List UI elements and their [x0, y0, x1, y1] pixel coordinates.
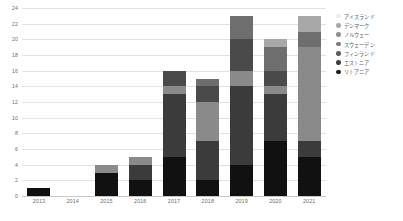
bar-segment[interactable]	[264, 86, 287, 94]
x-tick-label: 2013	[22, 198, 56, 212]
legend-label: フィンランド	[344, 50, 375, 57]
bar-segment[interactable]	[196, 180, 219, 196]
legend-item[interactable]: アイスランド	[336, 12, 402, 20]
x-tick-label: 2019	[225, 198, 259, 212]
bar-segment[interactable]	[163, 94, 186, 157]
x-tick-label: 2016	[123, 198, 157, 212]
bar-segment[interactable]	[264, 39, 287, 47]
bar-slot[interactable]	[157, 8, 191, 196]
gridline	[22, 196, 326, 197]
bar-segment[interactable]	[264, 71, 287, 87]
legend-swatch-icon	[336, 51, 341, 56]
legend-swatch-icon	[336, 14, 341, 19]
bar-segment[interactable]	[129, 165, 152, 181]
bar-segment[interactable]	[298, 157, 321, 196]
legend-swatch-icon	[336, 32, 341, 37]
y-tick-label: 6	[15, 146, 18, 152]
bar-segment[interactable]	[298, 47, 321, 141]
y-tick-label: 16	[12, 68, 18, 74]
y-axis: 024681012141618202224	[0, 8, 20, 196]
bar-segment[interactable]	[196, 86, 219, 102]
bar-segment[interactable]	[230, 86, 253, 164]
legend-label: エストニア	[344, 59, 370, 66]
bar-stack[interactable]	[95, 165, 118, 196]
bar-segment[interactable]	[230, 165, 253, 196]
chart-legend: アイスランドデンマークノルウェースウェーデンフィンランドエストニアリトアニア	[336, 12, 402, 77]
bar-segment[interactable]	[196, 79, 219, 87]
x-tick-label: 2015	[90, 198, 124, 212]
legend-item[interactable]: リトアニア	[336, 68, 402, 76]
y-tick-label: 22	[12, 21, 18, 27]
bar-segment[interactable]	[95, 165, 118, 173]
y-tick-label: 18	[12, 52, 18, 58]
plot-area	[22, 8, 326, 196]
legend-item[interactable]: フィンランド	[336, 49, 402, 57]
bar-segment[interactable]	[27, 188, 50, 196]
x-tick-label: 2017	[157, 198, 191, 212]
x-axis: 201320142015201620172018201920202021	[22, 198, 326, 212]
bar-slot[interactable]	[292, 8, 326, 196]
bar-segment[interactable]	[298, 32, 321, 48]
bar-slot[interactable]	[123, 8, 157, 196]
legend-label: デンマーク	[344, 22, 370, 29]
x-tick-label: 2018	[191, 198, 225, 212]
bar-slot[interactable]	[191, 8, 225, 196]
bar-slot[interactable]	[258, 8, 292, 196]
y-tick-label: 8	[15, 130, 18, 136]
bar-stack[interactable]	[230, 16, 253, 196]
y-tick-label: 10	[12, 115, 18, 121]
x-tick-label: 2014	[56, 198, 90, 212]
bar-segment[interactable]	[264, 141, 287, 196]
legend-label: スウェーデン	[344, 41, 375, 48]
bar-stack[interactable]	[196, 79, 219, 196]
y-tick-label: 20	[12, 36, 18, 42]
y-tick-label: 2	[15, 177, 18, 183]
bar-slot[interactable]	[56, 8, 90, 196]
legend-item[interactable]: スウェーデン	[336, 40, 402, 48]
y-tick-label: 24	[12, 5, 18, 11]
bar-segment[interactable]	[163, 86, 186, 94]
bar-slot[interactable]	[22, 8, 56, 196]
bar-stack[interactable]	[129, 157, 152, 196]
legend-item[interactable]: エストニア	[336, 58, 402, 66]
bar-segment[interactable]	[129, 180, 152, 196]
bar-segment[interactable]	[95, 173, 118, 197]
bar-segment[interactable]	[264, 47, 287, 71]
stacked-bar-chart: 024681012141618202224 201320142015201620…	[0, 0, 403, 221]
bar-slot[interactable]	[90, 8, 124, 196]
bar-segment[interactable]	[264, 94, 287, 141]
bars-layer	[22, 8, 326, 196]
legend-item[interactable]: デンマーク	[336, 21, 402, 29]
y-tick-label: 4	[15, 162, 18, 168]
bar-segment[interactable]	[230, 71, 253, 87]
bar-segment[interactable]	[196, 141, 219, 180]
legend-swatch-icon	[336, 23, 341, 28]
bar-segment[interactable]	[298, 141, 321, 157]
bar-stack[interactable]	[264, 39, 287, 196]
legend-swatch-icon	[336, 60, 341, 65]
bar-segment[interactable]	[298, 16, 321, 32]
legend-label: リトアニア	[344, 68, 370, 75]
bar-segment[interactable]	[129, 157, 152, 165]
bar-stack[interactable]	[27, 188, 50, 196]
bar-segment[interactable]	[163, 71, 186, 87]
legend-label: ノルウェー	[344, 31, 370, 38]
bar-segment[interactable]	[163, 157, 186, 196]
legend-label: アイスランド	[344, 13, 375, 20]
bar-stack[interactable]	[298, 16, 321, 196]
bar-stack[interactable]	[163, 71, 186, 196]
legend-swatch-icon	[336, 70, 341, 75]
y-tick-label: 12	[12, 99, 18, 105]
legend-item[interactable]: ノルウェー	[336, 31, 402, 39]
y-tick-label: 0	[15, 193, 18, 199]
x-tick-label: 2020	[258, 198, 292, 212]
bar-slot[interactable]	[225, 8, 259, 196]
x-tick-label: 2021	[292, 198, 326, 212]
bar-segment[interactable]	[230, 16, 253, 40]
legend-swatch-icon	[336, 42, 341, 47]
y-tick-label: 14	[12, 83, 18, 89]
bar-segment[interactable]	[196, 102, 219, 141]
bar-segment[interactable]	[230, 39, 253, 70]
